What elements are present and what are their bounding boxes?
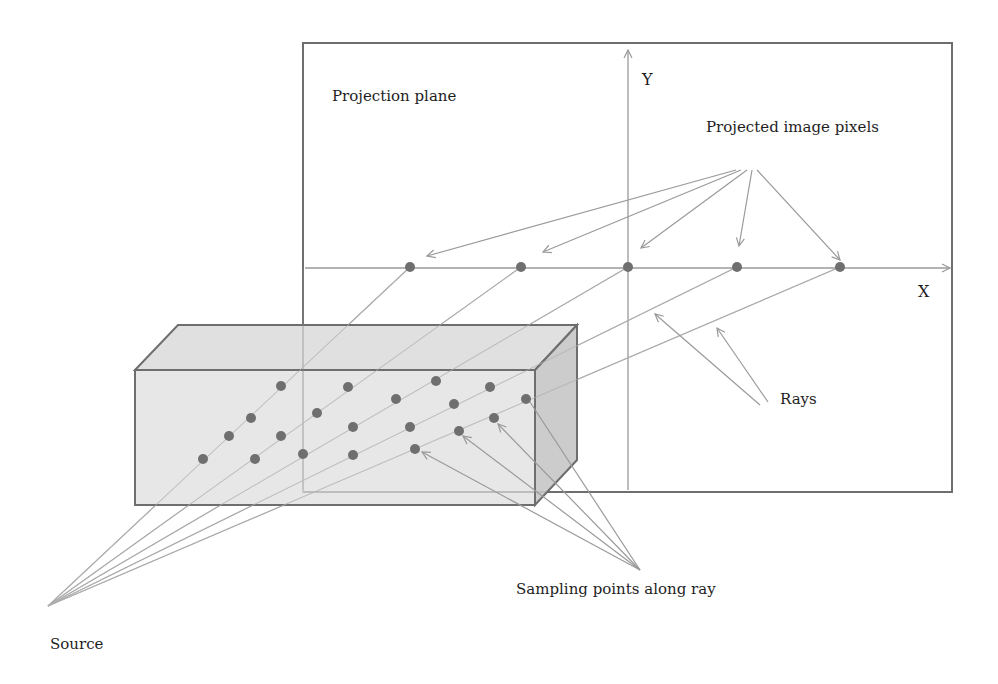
projection-plane-label: Projection plane (332, 87, 456, 105)
volume-box (135, 325, 577, 505)
sampling-points-label: Sampling points along ray (516, 580, 716, 598)
ray-casting-diagram (0, 0, 998, 684)
source-label: Source (50, 635, 103, 653)
projected-pixels-label: Projected image pixels (706, 118, 879, 136)
y-axis-label: Y (642, 70, 653, 89)
box-front-face (135, 370, 535, 505)
rays-label: Rays (780, 390, 817, 408)
box-top-face (135, 325, 577, 370)
x-axis-label: X (918, 282, 929, 301)
